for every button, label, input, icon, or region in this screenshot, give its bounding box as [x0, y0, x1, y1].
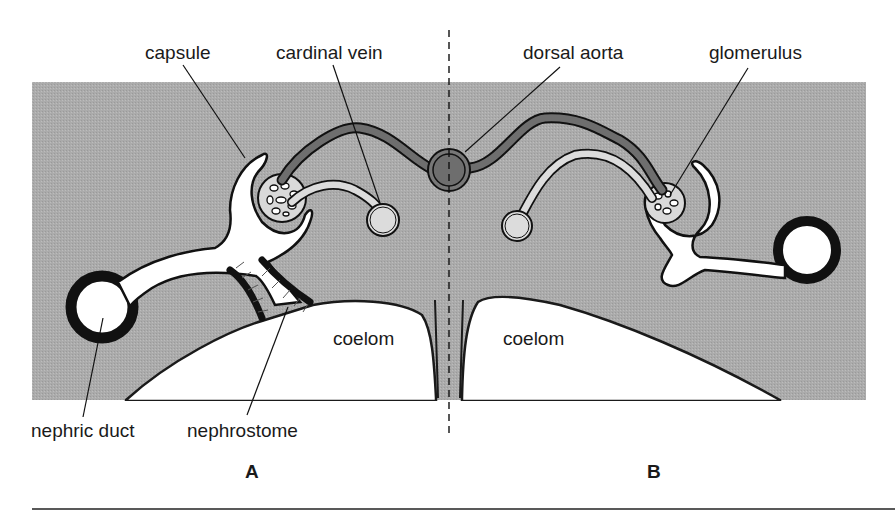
- kidney-nephron-diagram: [0, 0, 895, 521]
- label-nephric-duct: nephric duct: [31, 421, 135, 440]
- label-dorsal-aorta: dorsal aorta: [523, 43, 623, 62]
- cardinal-vein-left: [367, 204, 399, 236]
- label-cardinal-vein: cardinal vein: [276, 43, 383, 62]
- panel-label-b: B: [647, 462, 661, 481]
- label-glomerulus: glomerulus: [709, 43, 802, 62]
- cardinal-vein-right: [502, 211, 532, 241]
- label-capsule: capsule: [145, 43, 211, 62]
- label-nephrostome: nephrostome: [187, 421, 298, 440]
- panel-label-a: A: [245, 462, 259, 481]
- label-coelom-right: coelom: [503, 329, 564, 348]
- nephric-duct-right: [778, 221, 836, 279]
- label-coelom-left: coelom: [333, 329, 394, 348]
